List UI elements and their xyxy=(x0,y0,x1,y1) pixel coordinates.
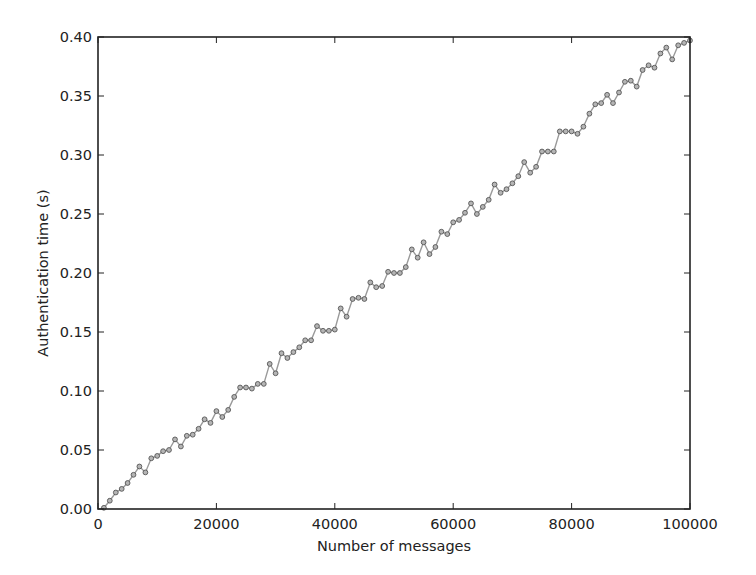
data-point-marker xyxy=(232,395,237,400)
x-tick-label: 60000 xyxy=(430,516,476,532)
data-point-marker xyxy=(510,181,515,186)
data-point-marker xyxy=(475,212,480,217)
data-point-marker xyxy=(362,297,367,302)
data-point-marker xyxy=(125,481,130,486)
x-axis-ticks: 020000400006000080000100000 xyxy=(93,37,717,532)
x-tick-label: 0 xyxy=(93,516,102,532)
data-point-marker xyxy=(338,306,343,311)
data-point-marker xyxy=(557,129,562,134)
data-point-marker xyxy=(155,454,160,459)
data-point-marker xyxy=(522,160,527,165)
data-point-marker xyxy=(469,201,474,206)
data-point-marker xyxy=(350,297,355,302)
data-point-marker xyxy=(244,385,249,390)
data-point-marker xyxy=(605,92,610,97)
data-point-marker xyxy=(593,102,598,107)
data-point-marker xyxy=(634,84,639,89)
y-tick-label: 0.35 xyxy=(60,88,92,104)
data-point-marker xyxy=(646,63,651,68)
data-point-marker xyxy=(628,78,633,83)
y-tick-label: 0.10 xyxy=(60,383,92,399)
y-tick-label: 0.05 xyxy=(60,442,92,458)
data-point-marker xyxy=(303,338,308,343)
data-point-marker xyxy=(386,269,391,274)
data-point-marker xyxy=(480,205,485,210)
data-point-marker xyxy=(173,437,178,442)
y-axis-label: Authentication time (s) xyxy=(35,189,51,356)
data-point-marker xyxy=(581,124,586,129)
data-point-marker xyxy=(356,295,361,300)
series-line xyxy=(104,41,690,508)
line-chart: 020000400006000080000100000 0.000.050.10… xyxy=(0,0,756,575)
data-point-marker xyxy=(409,247,414,252)
data-point-marker xyxy=(415,255,420,260)
data-point-marker xyxy=(682,41,687,46)
data-point-marker xyxy=(291,350,296,355)
data-point-marker xyxy=(652,65,657,70)
data-point-marker xyxy=(398,271,403,276)
data-point-marker xyxy=(392,271,397,276)
data-point-marker xyxy=(498,190,503,195)
y-tick-label: 0.00 xyxy=(60,501,92,517)
data-point-marker xyxy=(486,197,491,202)
data-point-marker xyxy=(368,280,373,285)
data-point-marker xyxy=(670,57,675,62)
data-point-marker xyxy=(403,265,408,270)
data-point-marker xyxy=(587,111,592,116)
x-axis-label: Number of messages xyxy=(317,538,471,554)
data-point-marker xyxy=(190,432,195,437)
data-point-marker xyxy=(119,487,124,492)
data-point-marker xyxy=(380,284,385,289)
data-point-marker xyxy=(321,328,326,333)
data-point-marker xyxy=(451,220,456,225)
data-point-marker xyxy=(516,174,521,179)
data-point-marker xyxy=(297,345,302,350)
data-point-marker xyxy=(374,285,379,290)
data-point-marker xyxy=(599,101,604,106)
data-point-marker xyxy=(143,470,148,475)
data-point-marker xyxy=(161,449,166,454)
data-point-marker xyxy=(149,456,154,461)
data-point-marker xyxy=(611,101,616,106)
data-point-marker xyxy=(315,324,320,329)
data-point-marker xyxy=(664,45,669,50)
data-point-marker xyxy=(255,382,260,387)
y-tick-label: 0.15 xyxy=(60,324,92,340)
data-point-marker xyxy=(196,426,201,431)
data-point-marker xyxy=(457,218,462,223)
data-point-marker xyxy=(261,382,266,387)
x-tick-label: 20000 xyxy=(193,516,239,532)
data-point-marker xyxy=(569,129,574,134)
data-point-marker xyxy=(421,240,426,245)
data-point-marker xyxy=(617,90,622,95)
y-tick-label: 0.40 xyxy=(60,29,92,45)
data-point-marker xyxy=(463,210,468,215)
data-point-marker xyxy=(131,472,136,477)
data-point-marker xyxy=(332,327,337,332)
data-point-marker xyxy=(439,229,444,234)
data-point-marker xyxy=(540,149,545,154)
data-point-marker xyxy=(534,164,539,169)
data-series xyxy=(102,38,693,510)
data-point-marker xyxy=(344,314,349,319)
data-point-marker xyxy=(546,149,551,154)
data-point-marker xyxy=(309,338,314,343)
y-tick-label: 0.20 xyxy=(60,265,92,281)
data-point-marker xyxy=(285,356,290,361)
y-tick-label: 0.25 xyxy=(60,206,92,222)
data-point-marker xyxy=(445,232,450,237)
y-tick-label: 0.30 xyxy=(60,147,92,163)
data-point-marker xyxy=(208,421,213,426)
data-point-marker xyxy=(492,182,497,187)
data-point-marker xyxy=(575,131,580,136)
x-tick-label: 40000 xyxy=(312,516,358,532)
data-point-marker xyxy=(238,385,243,390)
data-point-marker xyxy=(658,51,663,56)
data-point-marker xyxy=(640,68,645,73)
data-point-marker xyxy=(676,43,681,48)
data-point-marker xyxy=(427,252,432,257)
data-point-marker xyxy=(433,245,438,250)
data-point-marker xyxy=(107,498,112,503)
data-point-marker xyxy=(214,409,219,414)
data-point-marker xyxy=(220,415,225,420)
